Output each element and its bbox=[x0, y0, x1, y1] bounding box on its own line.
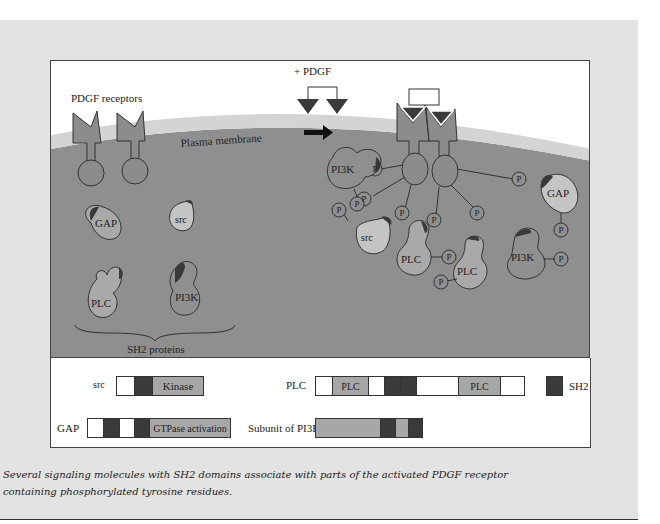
svg-text:P: P bbox=[354, 199, 359, 209]
svg-text:PLC: PLC bbox=[91, 297, 111, 309]
legend-gap-label: GAP bbox=[57, 421, 79, 435]
plus-pdgf-label: + PDGF bbox=[294, 65, 331, 77]
svg-text:P: P bbox=[446, 252, 451, 262]
svg-text:PLC: PLC bbox=[401, 253, 421, 265]
pdgf-ligand-icon bbox=[297, 99, 319, 114]
plc-domain: PLC bbox=[332, 377, 368, 395]
ligand-link bbox=[308, 87, 337, 100]
pdgf-receptors-label: PDGF receptors bbox=[71, 92, 142, 104]
legend-plc-label: PLC bbox=[286, 378, 306, 392]
sh2-domain bbox=[103, 419, 119, 437]
svg-text:P: P bbox=[474, 208, 479, 218]
pathway-diagram: Plasma membrane PDGF receptors + PDGF bbox=[51, 61, 590, 358]
svg-text:GAP: GAP bbox=[95, 217, 117, 229]
pdgf-ligand-icon bbox=[326, 99, 348, 114]
sh2-domain bbox=[408, 419, 422, 437]
kinase-domain: Kinase bbox=[152, 377, 203, 395]
legend-pi3k-bar bbox=[315, 418, 423, 438]
legend-pi3k-label: Subunit of PI3K bbox=[248, 421, 320, 435]
svg-text:src: src bbox=[361, 232, 373, 243]
svg-text:P: P bbox=[431, 215, 436, 225]
svg-text:P: P bbox=[336, 205, 341, 215]
svg-text:P: P bbox=[361, 194, 366, 204]
sh2-domain bbox=[400, 377, 416, 395]
sh2-key-swatch bbox=[546, 376, 563, 396]
figure-caption: Several signaling molecules with SH2 dom… bbox=[3, 466, 563, 500]
sh2-domain bbox=[134, 377, 152, 395]
svg-text:P: P bbox=[372, 164, 377, 174]
legend-gap-bar: GTPase activation bbox=[87, 418, 231, 438]
svg-text:PI3K: PI3K bbox=[331, 163, 354, 175]
legend-plc-bar: PLC PLC bbox=[315, 376, 525, 396]
plc-domain: PLC bbox=[458, 377, 500, 395]
svg-text:P: P bbox=[438, 277, 443, 287]
caption-line-1: Several signaling molecules with SH2 dom… bbox=[3, 466, 563, 483]
legend-src-label: src bbox=[93, 378, 105, 392]
gtpase-domain: GTPase activation bbox=[149, 419, 230, 437]
sh2-domain bbox=[380, 419, 395, 437]
svg-text:PI3K: PI3K bbox=[175, 291, 198, 303]
legend-sh2-label: SH2 bbox=[569, 379, 589, 393]
sh2-domain bbox=[384, 377, 400, 395]
dimer-bridge bbox=[409, 89, 439, 105]
domain-legend: src Kinase PLC PLC PLC SH2 GAP GTPase ac… bbox=[50, 358, 591, 448]
legend-src-bar: Kinase bbox=[116, 376, 204, 396]
sh2-proteins-label: SH2 proteins bbox=[127, 343, 185, 355]
svg-text:P: P bbox=[558, 254, 563, 264]
diagram-figure: Plasma membrane PDGF receptors + PDGF bbox=[50, 60, 590, 358]
free-protein-pi3k: PI3K bbox=[170, 261, 200, 315]
svg-text:GAP: GAP bbox=[547, 187, 569, 199]
svg-text:P: P bbox=[516, 174, 521, 184]
caption-line-2: containing phosphorylated tyrosine resid… bbox=[3, 483, 563, 500]
sh2-domain bbox=[134, 419, 149, 437]
svg-text:PLC: PLC bbox=[457, 265, 477, 277]
svg-text:P: P bbox=[558, 225, 563, 235]
svg-text:PI3K: PI3K bbox=[511, 251, 534, 263]
svg-text:src: src bbox=[175, 214, 187, 225]
svg-text:P: P bbox=[399, 208, 404, 218]
